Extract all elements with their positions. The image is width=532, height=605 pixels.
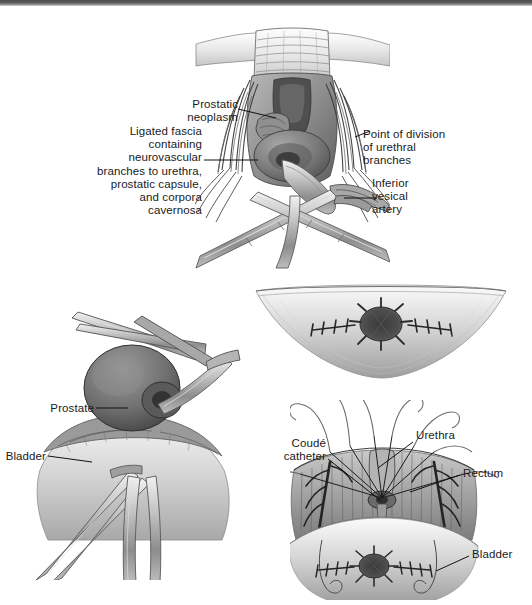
label-prostatic-neoplasm: Prostatic neoplasm xyxy=(92,98,238,124)
label-urethra: Urethra xyxy=(416,429,486,442)
panel-middle-right-illustration xyxy=(256,285,506,378)
label-inferior-vesical-artery: Inferior vesical artery xyxy=(372,177,482,217)
label-bladder-left: Bladder xyxy=(0,450,46,463)
label-prostate: Prostate xyxy=(24,402,94,415)
label-coude-catheter: Coudé catheter xyxy=(268,437,326,463)
label-rectum: Rectum xyxy=(463,467,527,480)
label-ligated-fascia: Ligated fascia containing neurovascular … xyxy=(40,125,202,217)
surgical-illustration-figure xyxy=(0,0,532,605)
panel-top-illustration xyxy=(194,28,390,268)
label-bladder-bottom: Bladder xyxy=(472,548,532,561)
bladder-stoma-bottom xyxy=(350,546,398,586)
label-point-of-division: Point of division of urethral branches xyxy=(363,128,503,168)
panel-bottom-left-illustration xyxy=(36,312,240,582)
